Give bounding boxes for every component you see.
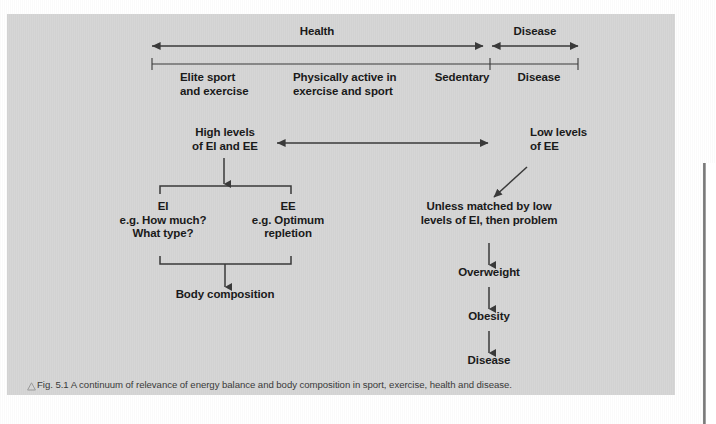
flow-body-composition: Body composition xyxy=(176,288,275,302)
continuum-segment-disease: Disease xyxy=(518,71,561,85)
flow-overweight: Overweight xyxy=(458,266,520,280)
flow-ee-block: EE e.g. Optimum repletion xyxy=(252,200,324,241)
flow-ei-block: EI e.g. How much? What type? xyxy=(120,200,207,241)
flow-low-levels: Low levels of EE xyxy=(530,126,587,153)
continuum-health-label: Health xyxy=(300,25,335,39)
book-page-edge-highlight xyxy=(706,163,716,424)
flow-unless-matched: Unless matched by low levels of EI, then… xyxy=(421,200,558,227)
caption-triangle-icon xyxy=(23,382,31,389)
continuum-disease-label: Disease xyxy=(514,25,557,39)
continuum-segment-sedentary: Sedentary xyxy=(435,71,490,85)
continuum-segment-physically-active: Physically active in exercise and sport xyxy=(293,71,396,98)
flow-disease: Disease xyxy=(468,354,511,368)
figure-root: Health Disease Elite sport and exercise … xyxy=(0,0,716,424)
flow-obesity: Obesity xyxy=(468,310,509,324)
flow-high-levels: High levels of EI and EE xyxy=(192,126,258,153)
continuum-segment-elite-sport: Elite sport and exercise xyxy=(180,71,249,98)
figure-caption: Fig. 5.1 A continuum of relevance of ene… xyxy=(37,379,512,391)
